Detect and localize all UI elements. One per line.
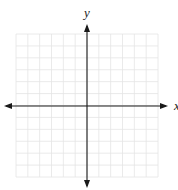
axes [4, 24, 168, 188]
coordinate-plane [0, 0, 178, 190]
y-axis-down-arrow-icon [84, 180, 90, 188]
y-axis-label: y [84, 6, 90, 19]
x-axis-right-arrow-icon [160, 103, 168, 109]
x-axis-label: x [174, 99, 178, 112]
y-axis-up-arrow-icon [84, 24, 90, 32]
x-axis-left-arrow-icon [4, 103, 12, 109]
